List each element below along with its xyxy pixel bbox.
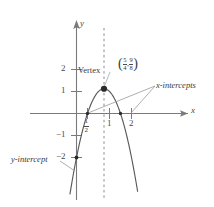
y-tick-label-2: 2 <box>61 64 66 73</box>
y-tick-label-1: 1 <box>61 86 66 95</box>
y-intercept-callout-label: y-intercept <box>11 155 48 164</box>
x-tick-half-denominator: 2 <box>84 127 89 134</box>
x-tick-label-2: 2 <box>129 119 134 128</box>
y-tick-label-minus-1: −1 <box>56 130 66 139</box>
vertex-point <box>101 86 107 92</box>
x-tick-label-1: 1 <box>107 119 112 128</box>
parabola-graph <box>0 0 214 207</box>
y-intercept-point <box>75 156 79 160</box>
vertex-callout-label: Vertex <box>78 66 100 75</box>
y-tick-label-minus-2: −2 <box>56 152 66 161</box>
x-intercepts-leader-lines <box>88 86 155 113</box>
coordinate-close-paren: ) <box>133 56 138 71</box>
y-axis <box>73 20 80 200</box>
y-intercept-callout-text: y-intercept <box>11 154 48 164</box>
x-intercepts-callout-label: x-intercepts <box>156 81 196 90</box>
vertex-leader-line <box>104 72 110 87</box>
y-axis-label: y <box>80 19 84 28</box>
x-intercepts-callout-text: x-intercepts <box>156 80 196 90</box>
x-axis-label: x <box>191 106 195 115</box>
y-intercept-leader-line <box>60 161 75 171</box>
x-tick-label-one-half: 1 2 <box>84 117 89 134</box>
vertex-coordinate-label: (54,98) <box>118 57 138 72</box>
